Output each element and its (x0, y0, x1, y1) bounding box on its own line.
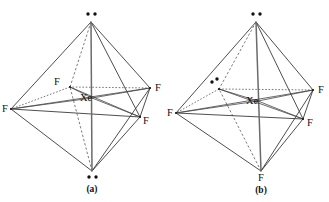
center-atom-label-a: Xe (80, 92, 93, 103)
vertex-a-frontright-node (139, 116, 141, 118)
lonepair-dot (210, 80, 213, 83)
lonepair-a-top-icon (86, 12, 96, 15)
edge-a-frontright-to-backright (140, 88, 150, 117)
edge-a-bottom-to-left (11, 109, 92, 171)
edge-a-backright-to-backleft (70, 87, 150, 88)
edge-a-top-to-backleft (70, 22, 91, 87)
structure-b-group: Xe F F F F (b) (167, 12, 324, 196)
edge-b-frontright-to-backright (303, 90, 313, 119)
lonepair-dot (258, 12, 261, 15)
edge-b-bottom-to-frontright (261, 119, 303, 171)
lonepair-dot (251, 12, 254, 15)
edge-a-top-to-frontright (91, 22, 140, 117)
lonepair-dot (94, 175, 97, 178)
lonepair-dot (215, 77, 218, 80)
lonepair-b-equatorial-icon (210, 77, 218, 83)
edge-a-left-to-frontright (11, 109, 140, 117)
edge-b-top-to-backleft (219, 22, 256, 89)
vertex-b-backright-node (312, 89, 314, 91)
atom-label-a-back-left: F (54, 76, 60, 87)
caption-b: (b) (255, 185, 267, 196)
edge-b-left-to-frontright (176, 113, 303, 119)
vertex-a-backleft-node (69, 86, 71, 88)
edge-b-top-to-left (176, 22, 256, 113)
atom-label-b-back-right: F (318, 84, 324, 95)
edge-a-backleft-to-left (11, 87, 70, 109)
atom-label-b-front-left: F (167, 107, 173, 118)
vertex-a-left-node (10, 108, 12, 110)
bond-b-left-to-backright (176, 90, 313, 113)
vertex-b-backleft-node (218, 88, 220, 90)
center-atom-label-b: Xe (246, 95, 259, 106)
atom-label-a-back-right: F (155, 82, 161, 93)
atom-label-b-front-right: F (307, 117, 313, 128)
structure-a-diagram: Xe F F F F (a) (0, 0, 329, 202)
edge-b-bottom-to-backright (261, 90, 313, 171)
edge-a-top-to-backright (91, 22, 150, 88)
edge-a-bottom-to-frontright (92, 117, 140, 171)
caption-a: (a) (86, 184, 97, 195)
lonepair-b-top-icon (251, 12, 261, 15)
molecular-geometry-figure: Xe F F F F (a) (0, 0, 329, 202)
edge-b-bottom-to-left (176, 113, 261, 171)
vertex-b-frontright-node (302, 118, 304, 120)
edge-b-backright-to-backleft (219, 89, 313, 90)
vertex-b-left-node (175, 112, 177, 114)
lonepair-a-bottom-icon (87, 175, 97, 178)
lonepair-dot (86, 12, 89, 15)
lonepair-dot (87, 175, 90, 178)
atom-label-a-front-right: F (143, 115, 149, 126)
structure-a-group: Xe F F F F (a) (2, 12, 161, 195)
atom-label-a-front-left: F (2, 103, 8, 114)
lonepair-dot (93, 12, 96, 15)
vertex-a-backright-node (149, 87, 151, 89)
atom-label-b-bottom: F (258, 172, 264, 183)
